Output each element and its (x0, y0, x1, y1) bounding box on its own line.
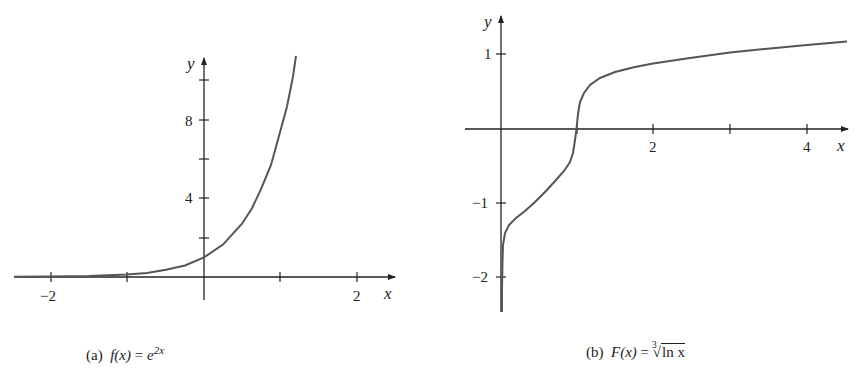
chart-a-caption-eq: = (135, 347, 143, 363)
chart-a-y-tick-label-4: 4 (185, 190, 193, 206)
chart-b-y-tick-label-neg1: −1 (472, 195, 488, 211)
chart-b-x-tick-label-2: 2 (649, 139, 657, 155)
chart-a-caption: (a) f(x) = e2x (86, 344, 164, 364)
chart-b-y-tick-label-neg2: −2 (472, 269, 488, 285)
chart-b-x-tick-label-4: 4 (803, 139, 811, 155)
chart-b-caption: (b) F(x) = 3√ln x (586, 344, 685, 361)
chart-a-caption-exponent: 2x (154, 344, 164, 356)
chart-a-caption-base: e (147, 347, 154, 363)
chart-b-caption-eq: = (641, 344, 649, 360)
chart-a-caption-lhs: f(x) (110, 347, 131, 363)
chart-b: 2 4 1 −1 −2 x y (465, 12, 848, 312)
chart-a-x-tick-label-neg2: −2 (40, 288, 56, 304)
chart-a-x-tick-label-2: 2 (353, 288, 361, 304)
figure-canvas: −2 2 4 8 x y 2 4 1 −1 −2 (0, 0, 863, 385)
chart-a: −2 2 4 8 x y (14, 54, 395, 304)
chart-b-curve (502, 42, 847, 313)
chart-b-caption-prefix: (b) (586, 344, 604, 360)
chart-b-caption-lhs: F(x) (611, 344, 637, 360)
chart-b-caption-radicand: ln x (661, 343, 685, 360)
chart-b-y-axis-label: y (482, 12, 492, 31)
chart-a-caption-prefix: (a) (86, 347, 103, 363)
chart-a-y-axis-label: y (185, 54, 195, 73)
chart-a-x-axis-label: x (383, 284, 392, 303)
chart-b-x-axis-label: x (836, 136, 845, 155)
chart-b-y-tick-label-1: 1 (484, 46, 492, 62)
chart-a-y-tick-label-8: 8 (185, 113, 193, 129)
chart-a-curve (14, 56, 296, 277)
chart-b-caption-root-index: 3 (652, 339, 657, 350)
